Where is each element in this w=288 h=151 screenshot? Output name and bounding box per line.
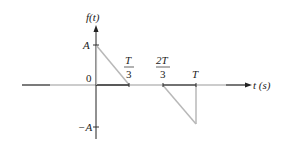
- y-axis-label: f(t): [86, 11, 100, 24]
- signal-segment: [163, 85, 196, 124]
- x-axis-label: t (s): [253, 79, 271, 92]
- x-tick-T3-num: T: [125, 54, 132, 66]
- y-tick-label-0: 0: [86, 72, 92, 84]
- x-tick-label-T: T: [192, 68, 199, 80]
- signal-diagram: f(t) t (s) A 0 −A T 3 2T 3 T: [0, 0, 288, 151]
- x-tick-2T3-den: 3: [160, 68, 166, 80]
- y-axis-arrow-icon: [94, 25, 99, 32]
- x-axis-arrow-icon: [245, 83, 252, 88]
- x-tick-T3-den: 3: [126, 68, 132, 80]
- y-tick-label-minus-A: −A: [78, 121, 92, 133]
- x-tick-2T3-num: 2T: [156, 54, 169, 66]
- y-tick-label-A: A: [82, 39, 90, 51]
